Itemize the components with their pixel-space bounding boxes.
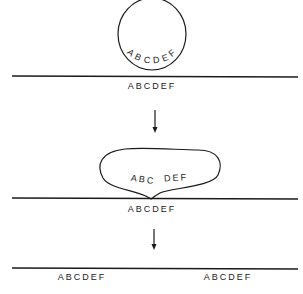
stage2-loop-label-right: DEF	[164, 172, 189, 184]
stage3-line	[12, 268, 298, 269]
stage2-line-label: ABCDEF	[128, 204, 177, 214]
down-arrow-icon	[153, 110, 158, 133]
stage3-line-label-left: ABCDEF	[58, 272, 107, 282]
stage1-loop-char-f: F	[166, 47, 177, 59]
stage2-pinched-loop	[100, 148, 220, 199]
stage1-loop-char-c: C	[143, 55, 151, 66]
stage1-line-label: ABCDEF	[128, 81, 177, 91]
down-arrow-icon	[152, 229, 157, 250]
stage1-loop-char-b: B	[133, 51, 143, 63]
stage1-line	[12, 76, 298, 77]
stage2-line	[12, 198, 298, 199]
stage2-loop-label-left: ABC	[130, 173, 156, 186]
diagram-canvas: A B C D E F ABCDEF ABC DEF ABCDEF ABCDEF…	[0, 0, 303, 294]
stage3-line-label-right: ABCDEF	[204, 272, 253, 282]
stage1-loop-char-d: D	[153, 55, 161, 66]
